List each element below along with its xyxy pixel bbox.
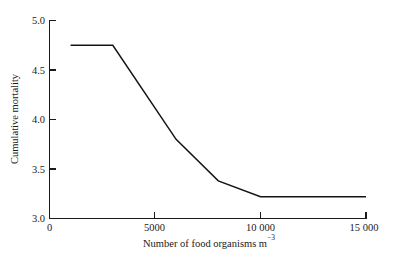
x-axis-title-exponent: −3 [267, 232, 275, 241]
data-series-line [71, 45, 366, 196]
y-axis-tick-labels: 5.0 4.5 4.0 3.5 3.0 [32, 15, 45, 224]
y-tick-label-3-5: 3.5 [32, 164, 45, 175]
x-axis-tick-labels: 0 5000 10 000 15 000 [47, 222, 379, 233]
y-tick-label-4-5: 4.5 [32, 65, 45, 76]
x-tick-label-5000: 5000 [144, 222, 165, 233]
chart-figure: 5.0 4.5 4.0 3.5 3.0 0 5000 10 000 15 000… [0, 0, 393, 262]
cumulative-mortality-line-chart: 5.0 4.5 4.0 3.5 3.0 0 5000 10 000 15 000… [0, 0, 393, 262]
y-tick-label-5-0: 5.0 [32, 15, 45, 26]
y-tick-label-4-0: 4.0 [32, 114, 45, 125]
x-axis-title: Number of food organisms m−3 [143, 232, 275, 249]
x-axis-title-text: Number of food organisms m [143, 238, 267, 249]
x-tick-label-15000: 15 000 [350, 222, 379, 233]
y-axis-ticks [50, 21, 57, 219]
x-axis-ticks [50, 212, 367, 219]
x-tick-label-0: 0 [47, 222, 52, 233]
y-axis-title: Cumulative mortality [9, 73, 20, 164]
y-tick-label-3-0: 3.0 [32, 213, 45, 224]
